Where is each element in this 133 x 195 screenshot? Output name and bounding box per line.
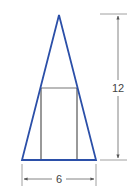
inscribed-rectangle bbox=[41, 88, 77, 160]
base-label: 6 bbox=[56, 173, 62, 185]
base-dimension: 6 bbox=[22, 164, 96, 186]
height-label: 12 bbox=[112, 82, 124, 94]
triangle-rectangle-diagram: 12 6 bbox=[0, 0, 133, 195]
height-dimension: 12 bbox=[100, 14, 127, 160]
